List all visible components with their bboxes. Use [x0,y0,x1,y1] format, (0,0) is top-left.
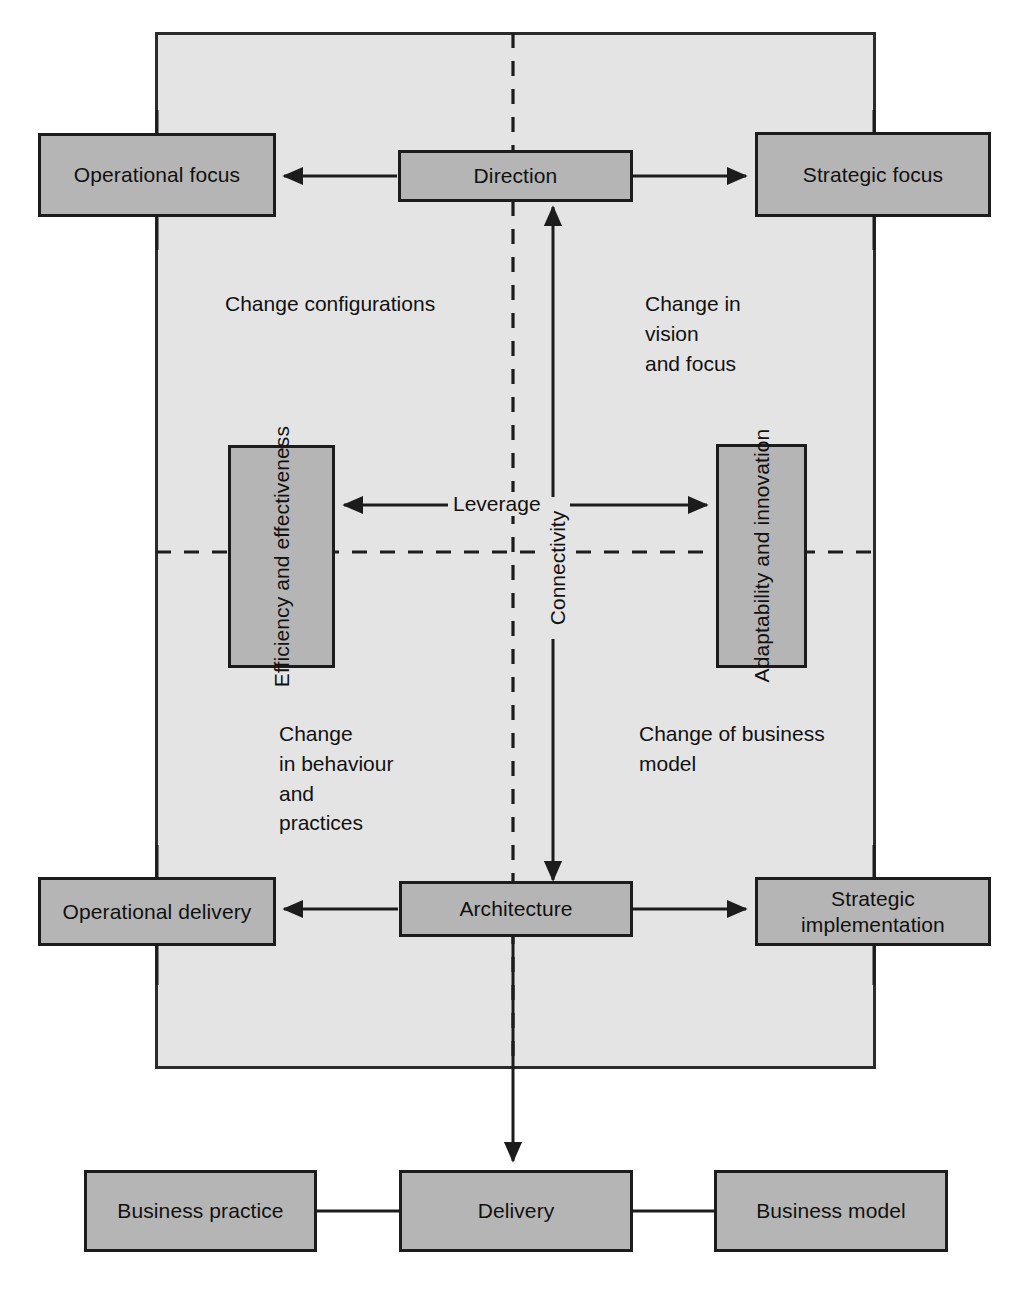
node-adaptability-and-innovation-label: Adaptability and innovation [749,423,774,689]
node-business-model-label: Business model [750,1198,912,1224]
node-direction[interactable]: Direction [398,150,633,202]
diagram-canvas: Operational focus Direction Strategic fo… [0,0,1025,1300]
node-strategic-implementation[interactable]: Strategic implementation [755,877,991,946]
annotation-change-of-business-model: Change of business model [639,719,825,779]
annotation-change-in-behaviour-and-practices: Change in behaviour and practices [279,719,393,838]
node-adaptability-and-innovation[interactable]: Adaptability and innovation [716,444,807,668]
node-operational-focus[interactable]: Operational focus [38,133,276,217]
node-architecture[interactable]: Architecture [399,881,633,937]
node-strategic-implementation-label: Strategic implementation [758,886,988,937]
node-delivery-label: Delivery [472,1198,561,1224]
node-architecture-label: Architecture [453,896,578,922]
node-direction-label: Direction [468,163,564,189]
node-strategic-focus[interactable]: Strategic focus [755,132,991,217]
annotation-change-in-vision-and-focus: Change in vision and focus [645,289,741,378]
node-efficiency-and-effectiveness[interactable]: Efficiency and effectiveness [228,445,335,668]
node-delivery[interactable]: Delivery [399,1170,633,1252]
annotation-change-configurations: Change configurations [225,289,435,319]
node-business-model[interactable]: Business model [714,1170,948,1252]
node-operational-delivery[interactable]: Operational delivery [38,877,276,946]
node-operational-delivery-label: Operational delivery [57,899,258,925]
label-connectivity: Connectivity [546,497,570,639]
node-efficiency-and-effectiveness-label: Efficiency and effectiveness [269,420,294,693]
node-operational-focus-label: Operational focus [68,162,246,188]
node-business-practice[interactable]: Business practice [84,1170,317,1252]
label-leverage: Leverage [448,492,546,516]
node-strategic-focus-label: Strategic focus [797,162,949,188]
node-business-practice-label: Business practice [111,1198,289,1224]
